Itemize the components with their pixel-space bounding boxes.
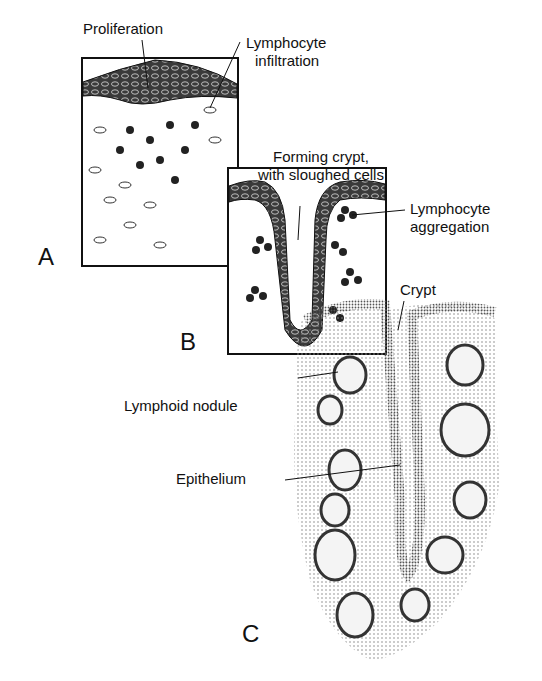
panel-a-drawing — [82, 58, 238, 266]
label-lymphocyte-aggregation-line1: Lymphocyte — [410, 200, 490, 217]
panel-letter-b: B — [180, 328, 196, 356]
label-forming-crypt-line1: Forming crypt, — [273, 148, 369, 165]
label-lymphocyte-infiltration-line2: infiltration — [255, 52, 319, 69]
label-epithelium: Epithelium — [176, 470, 246, 487]
label-proliferation: Proliferation — [83, 20, 163, 37]
label-lymphocyte-infiltration-line1: Lymphocyte — [246, 34, 326, 51]
label-lymphocyte-aggregation-line2: aggregation — [410, 218, 489, 235]
panel-letter-a: A — [38, 243, 54, 271]
label-lymphoid-nodule: Lymphoid nodule — [124, 397, 238, 414]
panel-c-drawing — [294, 303, 500, 660]
label-crypt: Crypt — [400, 281, 436, 298]
tonsil-development-diagram — [0, 0, 542, 681]
label-forming-crypt-line2: with sloughed cells — [258, 166, 384, 183]
panel-letter-c: C — [242, 620, 259, 648]
